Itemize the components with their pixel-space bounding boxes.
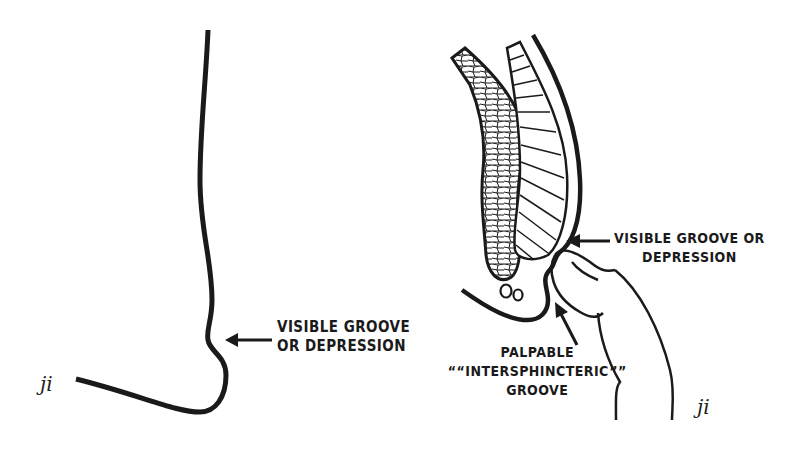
left-groove-label: VISIBLE GROOVE OR DEPRESSION xyxy=(277,318,410,356)
anatomy-diagram xyxy=(0,0,800,453)
right-groove-label-line2: DEPRESSION xyxy=(614,248,765,267)
right-artist-signature: ji xyxy=(697,395,710,419)
left-groove-label-line2: OR DEPRESSION xyxy=(277,337,410,356)
palpable-label-line3: GROOVE xyxy=(445,381,630,400)
anal-gland-circles xyxy=(501,285,523,301)
palpable-label-line1: PALPABLE xyxy=(445,343,630,362)
left-artist-signature: ji xyxy=(40,372,53,396)
right-groove-label-line1: VISIBLE GROOVE OR xyxy=(614,229,765,248)
left-groove-label-line1: VISIBLE GROOVE xyxy=(277,318,410,337)
left-profile-outline xyxy=(76,30,226,412)
palpable-groove-label: PALPABLE ““INTERSPHINCTERIC”” GROOVE xyxy=(445,343,630,400)
palpable-label-line2: ““INTERSPHINCTERIC”” xyxy=(445,362,630,381)
right-groove-label: VISIBLE GROOVE OR DEPRESSION xyxy=(614,229,765,267)
left-arrow xyxy=(225,333,272,347)
